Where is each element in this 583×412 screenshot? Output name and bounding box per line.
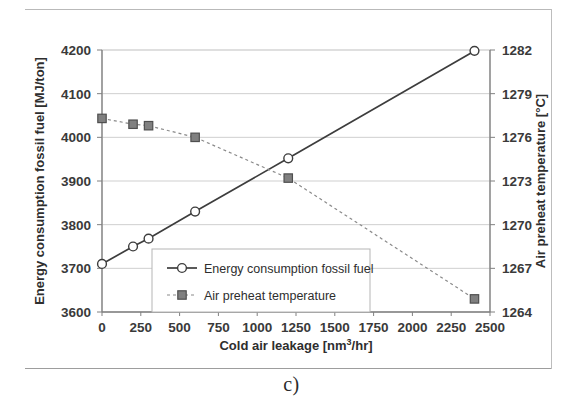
data-point-marker: [191, 207, 200, 216]
x-axis-tick-label: 750: [207, 320, 230, 335]
y-axis-title: Energy consumption fossil fuel [MJ/ton]: [32, 57, 47, 305]
legend-box: [152, 249, 370, 312]
data-point-marker: [284, 154, 293, 163]
figure-container: 3600370038003900400041004200 12641267127…: [0, 0, 583, 412]
data-point-marker: [191, 133, 199, 141]
data-point-marker: [284, 174, 292, 182]
x-axis-tick-label: 1000: [242, 320, 272, 335]
data-point-marker: [144, 234, 153, 243]
x-axis-tick-label: 1250: [281, 320, 311, 335]
y2-axis-tick-label: 1282: [502, 43, 532, 58]
y-axis-tick-labels: 3600370038003900400041004200: [61, 43, 102, 320]
y-axis-tick-label: 4000: [61, 130, 91, 145]
chart-plot: 3600370038003900400041004200 12641267127…: [0, 0, 583, 412]
y2-axis-title: Air preheat temperature [°C]: [533, 94, 548, 268]
y-axis-tick-label: 3900: [61, 174, 91, 189]
data-point-marker: [129, 242, 138, 251]
legend-marker-circle-icon: [178, 264, 187, 273]
y2-axis-tick-label: 1273: [502, 174, 533, 189]
y-axis-tick-label: 4200: [61, 43, 91, 58]
figure-caption: c): [0, 373, 583, 396]
legend-item-label[interactable]: Air preheat temperature: [204, 289, 336, 303]
y2-axis-tick-label: 1270: [502, 218, 532, 233]
x-axis-tick-label: 2250: [436, 320, 466, 335]
y-axis-tick-label: 3800: [61, 218, 91, 233]
x-axis-tick-label: 2500: [475, 320, 505, 335]
legend-item-label[interactable]: Energy consumption fossil fuel: [204, 262, 374, 276]
y2-axis-tick-label: 1267: [502, 261, 532, 276]
data-point-marker: [144, 121, 152, 129]
y2-axis-tick-label: 1276: [502, 130, 533, 145]
x-axis-title: Cold air leakage [nm3/hr]: [219, 337, 372, 353]
gridlines-group: [102, 94, 490, 269]
data-point-marker: [98, 260, 107, 269]
x-axis-tick-label: 1750: [359, 320, 389, 335]
x-axis-tick-labels: 02505007501000125015001750200022502500: [98, 312, 505, 335]
y2-axis-tick-label: 1279: [502, 87, 532, 102]
data-point-marker: [470, 295, 478, 303]
y-axis-tick-label: 3700: [61, 261, 91, 276]
data-point-marker: [470, 46, 479, 55]
x-axis-tick-label: 2000: [397, 320, 427, 335]
x-axis-tick-label: 250: [130, 320, 153, 335]
y2-axis-tick-labels: 1264126712701273127612791282: [490, 43, 533, 320]
y-axis-tick-label: 3600: [61, 305, 91, 320]
y2-axis-tick-label: 1264: [502, 305, 533, 320]
x-axis-tick-label: 0: [98, 320, 106, 335]
legend-marker-square-icon: [178, 291, 186, 299]
data-point-marker: [129, 120, 137, 128]
x-axis-tick-label: 1500: [320, 320, 350, 335]
chart-legend: Energy consumption fossil fuelAir prehea…: [152, 249, 374, 312]
y-axis-tick-label: 4100: [61, 87, 91, 102]
data-point-marker: [98, 114, 106, 122]
x-axis-tick-label: 500: [168, 320, 191, 335]
